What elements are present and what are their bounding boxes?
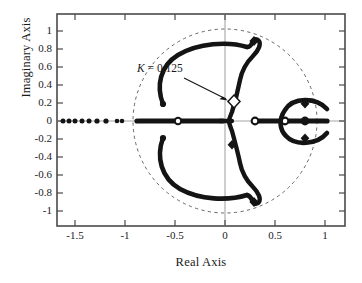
x-tick-label-4: 0.5 (255, 229, 295, 241)
x-tick-label-3: 0 (205, 229, 245, 241)
y-tick-label-1: 0.8 (18, 42, 52, 54)
y-tick-label-0: 1 (18, 24, 52, 36)
y-tick-label-8: -0.6 (18, 168, 52, 180)
gain-equals: = (145, 62, 157, 74)
y-tick-label-2: 0.6 (18, 60, 52, 72)
gain-value: 0.125 (157, 62, 183, 74)
gain-annotation-label: K = 0.125 (137, 62, 183, 74)
root-locus-figure: Imaginary Axis Real Axis -1.5 -1 -0.5 0 … (0, 0, 362, 283)
x-tick-label-0: -1.5 (55, 229, 95, 241)
x-tick-label-2: -0.5 (155, 229, 195, 241)
x-tick-label-5: 1 (305, 229, 345, 241)
x-axis-title: Real Axis (57, 255, 345, 270)
y-tick-label-4: 0.2 (18, 96, 52, 108)
x-tick-label-1: -1 (105, 229, 145, 241)
y-tick-label-10: -1 (18, 204, 52, 216)
y-tick-label-6: -0.2 (18, 132, 52, 144)
y-tick-label-9: -0.8 (18, 186, 52, 198)
y-tick-label-3: 0.4 (18, 78, 52, 90)
y-tick-label-7: -0.4 (18, 150, 52, 162)
gain-symbol: K (137, 62, 145, 74)
y-tick-label-5: 0 (18, 114, 52, 126)
